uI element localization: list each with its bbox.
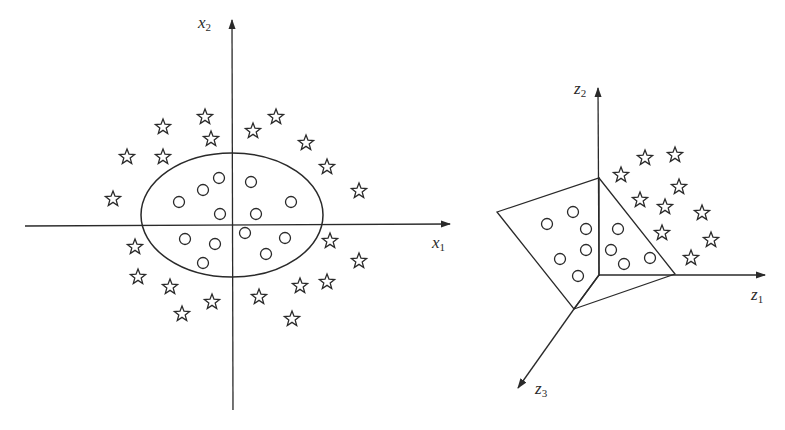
star-icon (637, 150, 652, 165)
star-icon (268, 109, 283, 124)
star-icon (683, 250, 698, 265)
star-icon (284, 311, 299, 326)
x2-axis-label: x2 (198, 14, 211, 33)
star-icon (130, 269, 145, 284)
input-space-panel (25, 20, 450, 410)
star-class-points (105, 109, 366, 326)
feature-space-panel (497, 88, 765, 388)
z1-axis-label: z1 (751, 286, 763, 305)
circle-point (542, 219, 553, 230)
star-icon (632, 192, 647, 207)
star-icon (322, 233, 337, 248)
star-icon (155, 119, 170, 134)
star-icon (251, 289, 266, 304)
circle-point (210, 239, 221, 250)
star-icon (197, 109, 212, 124)
star-icon (119, 149, 134, 164)
circle-point (645, 253, 656, 264)
star-icon (155, 149, 170, 164)
circle-point (198, 258, 209, 269)
star-icon (203, 131, 218, 146)
star-icon (351, 183, 366, 198)
circle-point (180, 234, 191, 245)
star-icon (613, 167, 628, 182)
x2-axis (232, 20, 233, 410)
z2-axis-label: z2 (574, 80, 586, 99)
separating-plane-left-face (497, 178, 599, 309)
star-icon (671, 179, 686, 194)
circle-point (215, 209, 226, 220)
circle-point (581, 224, 592, 235)
star-icon (162, 279, 177, 294)
circle-point (581, 245, 592, 256)
circle-point (568, 207, 579, 218)
circle-point (246, 177, 257, 188)
star-icon (105, 191, 120, 206)
circle-point (261, 249, 272, 260)
circle-point (280, 233, 291, 244)
circle-point (606, 245, 617, 256)
star-icon (319, 274, 334, 289)
z3-axis-label: z3 (535, 380, 547, 399)
circle-point (286, 197, 297, 208)
star-icon (351, 253, 366, 268)
x1-axis (25, 224, 450, 226)
circle-point (214, 173, 225, 184)
circle-point (198, 185, 209, 196)
star-icon (667, 147, 682, 162)
star-icon (319, 159, 334, 174)
star-icon (703, 232, 718, 247)
circle-point (619, 259, 630, 270)
z3-axis (518, 309, 574, 388)
star-icon (657, 199, 672, 214)
x1-axis-label: x1 (432, 234, 445, 253)
circle-point (174, 197, 185, 208)
circle-class-points (174, 173, 297, 269)
circle-point (573, 271, 584, 282)
star-icon (694, 205, 709, 220)
star-icon (174, 306, 189, 321)
feature-mapping-diagram (0, 0, 785, 430)
star-icon (654, 225, 669, 240)
star-icon (245, 123, 260, 138)
star-icon (204, 294, 219, 309)
star-class-points-mapped (613, 147, 718, 265)
circle-point (251, 209, 262, 220)
star-icon (292, 278, 307, 293)
circle-point (240, 228, 251, 239)
star-icon (298, 135, 313, 150)
circle-point (555, 254, 566, 265)
circle-point (613, 224, 624, 235)
star-icon (127, 239, 142, 254)
